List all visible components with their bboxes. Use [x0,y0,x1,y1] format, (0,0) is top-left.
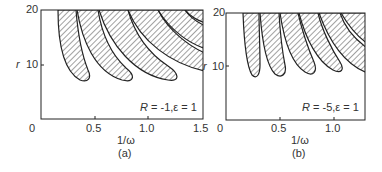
panel-b-xtick-0-5: 0.5 [271,122,286,134]
panel-a-xtick-1-5: 1.5 [193,122,208,134]
panel-b-ytick-20: 20 [213,6,225,18]
panel-a-xtick-0-5: 0.5 [86,122,101,134]
panel-a-plot [58,10,210,81]
panel-a-caption: (a) [118,147,131,159]
panel-a-xtick-0: 0 [29,122,35,134]
figure-canvas [0,0,382,172]
panel-a-ytick-10: 10 [26,58,38,70]
panel-b-plot [243,13,370,77]
panel-b-ytick-10: 10 [212,60,224,72]
panel-b-ylabel: r [203,60,207,72]
panel-a-annotation: R = -1,ε = 1 [140,101,197,113]
panel-b-xtick-0: 0 [217,122,223,134]
panel-b-caption: (b) [292,147,305,159]
panel-b-xlabel: 1/ω [291,134,309,146]
panel-b-annotation: R = -5,ε = 1 [302,101,359,113]
tongue-b-1 [243,13,260,77]
panel-b-xtick-1-0: 1.0 [325,122,340,134]
panel-a-xtick-1-0: 1.0 [139,122,154,134]
panel-a-ytick-20: 20 [26,3,38,15]
panel-a-ylabel: r [16,58,20,70]
panel-a-xlabel: 1/ω [117,134,135,146]
